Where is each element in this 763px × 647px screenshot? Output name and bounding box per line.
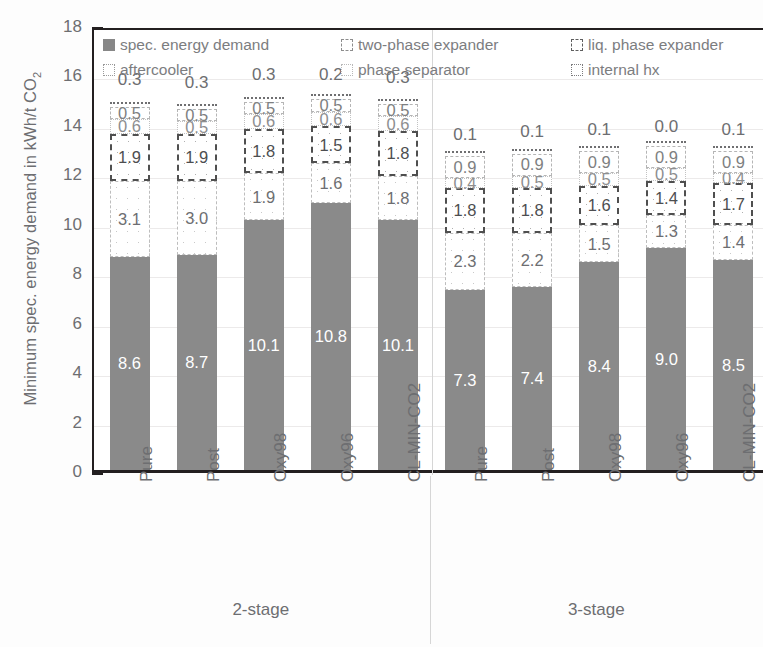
bar-segment-twophase[interactable]: 0.5 <box>378 104 418 116</box>
bar-segment-liq[interactable]: 1.8 <box>378 131 418 176</box>
bar-segment-sep[interactable]: 0.4 <box>445 178 485 188</box>
bar-segment-liq[interactable]: 1.7 <box>713 183 753 225</box>
x-axis-label-cl-min-co2: CL-MIN-CO2 <box>405 383 425 482</box>
bar-segment-hx[interactable] <box>378 99 418 104</box>
bar-segment-value: 0.5 <box>118 105 141 122</box>
bar-segment-aftercooler[interactable]: 1.3 <box>646 215 686 247</box>
bar-segment-value: 1.4 <box>722 234 745 251</box>
bar-segment-liq[interactable]: 1.9 <box>177 134 217 181</box>
bar-segment-twophase[interactable]: 0.9 <box>646 146 686 168</box>
bar-segment-value: 2.2 <box>521 252 544 269</box>
bar-segment-hx[interactable] <box>110 102 150 107</box>
legend-item-phase-separator[interactable]: phase separator <box>341 61 571 79</box>
bar-segment-value: 0.5 <box>655 166 678 183</box>
bar-segment-aftercooler[interactable]: 1.4 <box>713 225 753 260</box>
bar-segment-hx[interactable] <box>646 141 686 146</box>
plot-area: 8.63.11.90.60.50.38.73.01.90.50.50.310.1… <box>92 28 763 473</box>
y-axis-tick-label: 8 <box>18 264 82 284</box>
bar-segment-liq[interactable]: 1.8 <box>512 188 552 233</box>
legend-item-label: aftercooler <box>120 61 193 79</box>
bar-segment-value: 1.5 <box>319 137 342 154</box>
bar-segment-twophase[interactable]: 0.5 <box>110 107 150 119</box>
bar-stack[interactable]: 9.01.31.40.50.90.0 <box>646 25 686 470</box>
legend-swatch-dashed-icon <box>341 39 353 51</box>
bar-segment-liq[interactable]: 1.8 <box>445 188 485 233</box>
bar-segment-aftercooler[interactable]: 2.3 <box>445 233 485 290</box>
bar-stack[interactable]: 10.81.61.50.60.50.2 <box>311 25 351 470</box>
bar-stack[interactable]: 10.11.91.80.60.50.3 <box>244 25 284 470</box>
bar-segment-hx[interactable] <box>713 146 753 151</box>
bar-segment-twophase[interactable]: 0.9 <box>579 151 619 173</box>
bar-segment-hx-value: 0.1 <box>433 125 497 145</box>
bar-segment-aftercooler[interactable]: 3.1 <box>110 181 150 258</box>
bar-segment-hx[interactable] <box>445 151 485 156</box>
bar-segment-aftercooler[interactable]: 1.6 <box>311 163 351 203</box>
bar-segment-sep[interactable]: 0.5 <box>579 173 619 185</box>
legend-item-spec-energy-demand[interactable]: spec. energy demand <box>103 36 341 54</box>
bar-segment-liq[interactable]: 1.9 <box>110 134 150 181</box>
bar-segment-hx[interactable] <box>311 94 351 99</box>
bar-segment-twophase[interactable]: 0.5 <box>177 109 217 121</box>
bar-segment-aftercooler[interactable]: 2.2 <box>512 233 552 287</box>
bar-stack[interactable]: 8.41.51.60.50.90.1 <box>579 25 619 470</box>
bar-segment-aftercooler[interactable]: 1.8 <box>378 176 418 221</box>
bar-segment-hx[interactable] <box>512 149 552 154</box>
bar-segment-value: 1.8 <box>386 190 409 207</box>
y-axis-tick-label: 0 <box>18 462 82 482</box>
bar-segment-sep[interactable]: 0.4 <box>713 173 753 183</box>
bar-segment-aftercooler[interactable]: 3.0 <box>177 181 217 255</box>
bar-segment-twophase[interactable]: 0.5 <box>244 102 284 114</box>
x-axis-label-oxy96: Oxy96 <box>338 433 358 482</box>
bar-segment-sep[interactable]: 0.5 <box>646 168 686 180</box>
bar-segment-base[interactable]: 8.7 <box>177 255 217 470</box>
legend-item-two-phase-expander[interactable]: two-phase expander <box>341 36 571 54</box>
legend-item-liq-phase-expander[interactable]: liq. phase expander <box>571 36 761 54</box>
bar-segment-hx[interactable] <box>177 104 217 109</box>
group-divider-lower <box>430 476 432 644</box>
bar-stack[interactable]: 8.73.01.90.50.50.3 <box>177 25 217 470</box>
bar-stack[interactable]: 7.42.21.80.50.90.1 <box>512 25 552 470</box>
x-axis-label-pure: Pure <box>137 446 157 482</box>
legend-item-aftercooler[interactable]: aftercooler <box>103 61 341 79</box>
bar-segment-base[interactable]: 10.8 <box>311 203 351 470</box>
bar-segment-aftercooler[interactable]: 1.5 <box>579 225 619 262</box>
bar-segment-value: 0.9 <box>521 156 544 173</box>
bar-segment-liq[interactable]: 1.4 <box>646 181 686 216</box>
y-axis-tick-label: 4 <box>18 363 82 383</box>
legend-swatch-dashdot-icon <box>571 39 583 51</box>
bar-segment-hx-value: 0.1 <box>567 120 631 140</box>
legend-item-label: internal hx <box>588 61 660 79</box>
bar-segment-value: 1.8 <box>386 145 409 162</box>
bar-segment-base[interactable]: 8.6 <box>110 257 150 470</box>
bar-segment-liq[interactable]: 1.6 <box>579 186 619 226</box>
bar-segment-value: 10.1 <box>248 337 280 354</box>
bar-segment-aftercooler[interactable]: 1.9 <box>244 173 284 220</box>
bar-segment-value: 0.5 <box>588 171 611 188</box>
y-axis-tick-label: 6 <box>18 314 82 334</box>
bar-segment-liq[interactable]: 1.5 <box>311 126 351 163</box>
bar-segment-value: 10.8 <box>315 328 347 345</box>
legend-item-internal-hx[interactable]: internal hx <box>571 61 761 79</box>
bar-segment-hx[interactable] <box>244 97 284 102</box>
bar-segment-hx[interactable] <box>579 146 619 151</box>
bar-segment-hx-value: 0.1 <box>701 120 763 140</box>
bar-segment-twophase[interactable]: 0.9 <box>512 154 552 176</box>
bar-segment-value: 0.9 <box>722 154 745 171</box>
bar-stack[interactable]: 7.32.31.80.40.90.1 <box>445 25 485 470</box>
legend-item-label: liq. phase expander <box>588 36 723 54</box>
bar-segment-value: 1.8 <box>252 143 275 160</box>
bar-stack[interactable]: 8.63.11.90.60.50.3 <box>110 25 150 470</box>
bar-segment-twophase[interactable]: 0.9 <box>713 151 753 173</box>
legend-swatch-dotted-icon <box>103 64 115 76</box>
x-axis-label-oxy98: Oxy98 <box>606 433 626 482</box>
bar-segment-value: 3.0 <box>185 210 208 227</box>
bar-segment-base[interactable]: 7.4 <box>512 287 552 470</box>
bar-segment-value: 7.3 <box>454 372 477 389</box>
bar-segment-base[interactable]: 7.3 <box>445 290 485 470</box>
bar-segment-twophase[interactable]: 0.9 <box>445 156 485 178</box>
bar-segment-twophase[interactable]: 0.5 <box>311 99 351 111</box>
x-axis-label-pure: Pure <box>472 446 492 482</box>
bar-segment-sep[interactable]: 0.5 <box>512 176 552 188</box>
bar-segment-liq[interactable]: 1.8 <box>244 129 284 174</box>
x-axis-label-oxy96: Oxy96 <box>673 433 693 482</box>
